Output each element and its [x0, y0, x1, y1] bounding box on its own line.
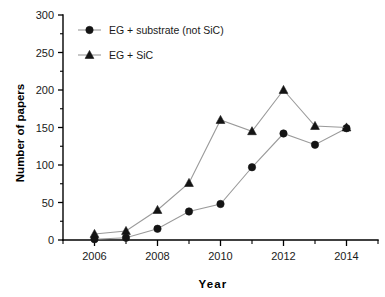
data-point [185, 208, 192, 215]
line-chart: 050100150200250300 20062008201020122014 … [0, 0, 385, 297]
y-tick-label: 50 [42, 197, 54, 209]
y-tick-label: 300 [36, 9, 54, 21]
x-tick-label: 2008 [145, 250, 169, 262]
y-tick-label: 150 [36, 122, 54, 134]
legend-marker-circle [86, 26, 93, 33]
data-point [248, 164, 255, 171]
data-point [154, 225, 161, 232]
x-tick-label: 2012 [271, 250, 295, 262]
chart-figure: 050100150200250300 20062008201020122014 … [0, 0, 385, 297]
data-point [185, 178, 194, 186]
data-point [153, 205, 162, 213]
data-point [311, 141, 318, 148]
legend-marker-triangle [85, 50, 94, 58]
legend-label: EG + substrate (not SiC) [109, 24, 224, 36]
data-point [280, 130, 287, 137]
legend-label: EG + SiC [109, 49, 153, 61]
y-tick-label: 100 [36, 159, 54, 171]
y-tick-label: 0 [48, 234, 54, 246]
chart-legend: EG + substrate (not SiC)EG + SiC [78, 24, 224, 61]
series-line [95, 128, 347, 239]
data-point [216, 115, 225, 123]
data-point [122, 234, 129, 241]
y-tick-label: 200 [36, 84, 54, 96]
x-tick-label: 2010 [208, 250, 232, 262]
data-point [279, 85, 288, 93]
x-axis-tick-labels: 20062008201020122014 [82, 250, 358, 262]
data-point [122, 226, 131, 234]
y-axis-tick-labels: 050100150200250300 [36, 9, 54, 246]
x-tick-label: 2014 [334, 250, 358, 262]
y-axis-title: Number of papers [14, 84, 26, 182]
legend-entry-2: EG + SiC [78, 49, 153, 61]
y-tick-label: 250 [36, 47, 54, 59]
x-tick-label: 2006 [82, 250, 106, 262]
series-1 [91, 125, 350, 243]
y-axis-ticks [58, 15, 63, 240]
x-axis-ticks [95, 240, 347, 246]
data-point [217, 200, 224, 207]
series-2 [90, 85, 351, 237]
data-series-layer [90, 85, 351, 243]
series-line [95, 90, 347, 234]
legend-entry-1: EG + substrate (not SiC) [78, 24, 224, 36]
x-axis-title: Year [198, 278, 227, 290]
